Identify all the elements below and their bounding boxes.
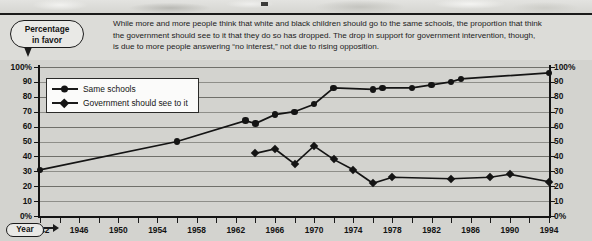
legend-line-icon xyxy=(52,88,78,90)
data-point-marker xyxy=(291,109,297,115)
y-axis-tick-label-left: 80 xyxy=(0,92,32,101)
y-axis-tick-label-left: 100% xyxy=(0,63,32,72)
x-axis-tick-label: 1970 xyxy=(294,225,334,235)
y-axis-tick-label-right: 0% xyxy=(554,212,588,221)
x-axis-tick-mark xyxy=(197,218,198,223)
chart-legend: Same schools Government should see to it xyxy=(46,78,199,113)
y-axis-tick-label-left: 50 xyxy=(0,137,32,146)
data-point-marker xyxy=(242,117,248,123)
x-axis-tick-mark xyxy=(236,218,237,223)
x-axis-tick-label: 1978 xyxy=(372,225,412,235)
x-axis-tick-mark xyxy=(373,218,374,223)
y-axis-tick-label-left: 20 xyxy=(0,182,32,191)
y-axis-tick-label-right: 60 xyxy=(554,122,588,131)
x-axis-tick-mark xyxy=(353,218,354,223)
series-line xyxy=(255,146,549,183)
y-axis-tick-label-left: 0% xyxy=(0,212,32,221)
legend-item-same-schools: Same schools xyxy=(52,82,193,96)
x-axis-tick-mark xyxy=(451,218,452,223)
data-point-marker xyxy=(546,70,552,76)
diamond-marker-icon xyxy=(60,98,69,107)
x-axis-tick-mark xyxy=(40,218,41,223)
x-axis-tick-label: 1974 xyxy=(333,225,373,235)
caption-line3: is due to more people answering “no inte… xyxy=(113,41,583,53)
x-axis-tick-mark xyxy=(118,218,119,223)
y-axis-tick-label-left: 30 xyxy=(0,167,32,176)
x-axis-tick-mark xyxy=(177,218,178,223)
data-point-marker xyxy=(174,138,180,144)
x-axis-tick-label: 1990 xyxy=(490,225,530,235)
y-axis-tick-label-left: 10 xyxy=(0,197,32,206)
x-axis-tick-mark xyxy=(392,218,393,223)
x-axis-tick-mark xyxy=(510,218,511,223)
percentage-in-favor-callout: Percentage in favor xyxy=(10,20,84,48)
caption-text: While more and more people think that wh… xyxy=(113,18,583,53)
x-axis-tick-mark xyxy=(99,218,100,223)
x-axis-tick-mark xyxy=(529,218,530,223)
x-axis-tick-label: 1966 xyxy=(255,225,295,235)
x-axis-tick-mark xyxy=(471,218,472,223)
x-axis-tick-mark xyxy=(295,218,296,223)
y-axis-tick-label-right: 100% xyxy=(554,63,588,72)
x-axis-tick-label: 1950 xyxy=(98,225,138,235)
caption-line2: the government should see to it that the… xyxy=(113,30,583,42)
legend-item-government: Government should see to it xyxy=(52,96,193,110)
x-axis-tick-mark xyxy=(138,218,139,223)
y-axis-tick-label-right: 80 xyxy=(554,92,588,101)
y-axis-tick-label-right: 20 xyxy=(554,182,588,191)
x-axis-tick-mark xyxy=(490,218,491,223)
x-axis-tick-mark xyxy=(255,218,256,223)
x-axis-tick-mark xyxy=(157,218,158,223)
circle-marker-icon xyxy=(61,86,68,93)
x-axis-tick-mark xyxy=(314,218,315,223)
data-point-marker xyxy=(272,111,278,117)
y-axis-tick-label-right: 70 xyxy=(554,107,588,116)
x-axis-tick-label: 1958 xyxy=(177,225,217,235)
legend-label-same-schools: Same schools xyxy=(83,84,136,94)
x-axis-tick-label: 1954 xyxy=(137,225,177,235)
x-axis-tick-label: 1962 xyxy=(216,225,256,235)
x-axis-tick-mark xyxy=(412,218,413,223)
y-axis-tick-label-right: 90 xyxy=(554,77,588,86)
data-point-marker xyxy=(330,85,336,91)
x-axis-tick-label: 1994 xyxy=(529,225,569,235)
callout-line1: Percentage xyxy=(11,24,83,35)
x-axis-tick-label: 1982 xyxy=(412,225,452,235)
data-point-marker xyxy=(428,82,434,88)
x-axis-tick-label: 1986 xyxy=(451,225,491,235)
legend-line-icon xyxy=(52,102,78,104)
caption-line1: While more and more people think that wh… xyxy=(113,18,583,30)
y-axis-right-line xyxy=(549,65,551,218)
x-axis-tick-label: 1946 xyxy=(59,225,99,235)
infographic-root: Percentage in favor While more and more … xyxy=(0,0,592,241)
x-axis-tick-mark xyxy=(549,218,550,223)
data-point-marker xyxy=(252,120,258,126)
year-arrow-head-icon xyxy=(53,224,59,232)
callout-tail-icon xyxy=(24,47,32,57)
data-point-marker xyxy=(370,86,376,92)
chart-area: 0%102030405060708090100% 0%1020304050607… xyxy=(0,60,592,241)
x-axis-tick-mark xyxy=(79,218,80,223)
callout-line2: in favor xyxy=(11,35,83,46)
y-axis-tick-label-right: 50 xyxy=(554,137,588,146)
y-axis-tick-label-left: 90 xyxy=(0,77,32,86)
y-axis-tick-label-left: 40 xyxy=(0,152,32,161)
x-axis-tick-mark xyxy=(275,218,276,223)
top-texture-band xyxy=(0,0,592,13)
x-axis-tick-mark xyxy=(432,218,433,223)
y-axis-tick-label-right: 30 xyxy=(554,167,588,176)
x-axis-line xyxy=(38,216,551,218)
header-panel: Percentage in favor While more and more … xyxy=(0,15,592,60)
x-axis-tick-mark xyxy=(334,218,335,223)
legend-label-government: Government should see to it xyxy=(83,98,188,108)
y-axis-tick-label-right: 40 xyxy=(554,152,588,161)
data-point-marker xyxy=(379,85,385,91)
y-axis-tick-label-right: 10 xyxy=(554,197,588,206)
x-axis-tick-mark xyxy=(216,218,217,223)
y-axis-tick-label-left: 60 xyxy=(0,122,32,131)
x-axis-tick-mark xyxy=(60,218,61,223)
y-axis-tick-label-left: 70 xyxy=(0,107,32,116)
year-axis-pill: Year xyxy=(6,223,44,237)
